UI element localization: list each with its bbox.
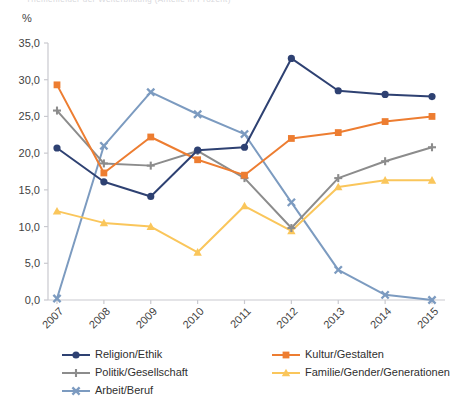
x-axis-tick-label: 2008 xyxy=(86,305,112,331)
data-point-square-marker xyxy=(100,170,107,177)
series-politik-gesellschaft xyxy=(53,107,436,232)
data-point-square-marker xyxy=(241,172,248,179)
x-axis-tick-label: 2007 xyxy=(40,305,66,331)
data-point-circle-marker xyxy=(147,193,154,200)
y-axis-tick-label: 25,0 xyxy=(19,110,40,122)
data-point-circle-marker xyxy=(194,147,201,154)
data-point-square-marker xyxy=(429,113,436,120)
legend-item-religion-ethik[interactable]: Religion/Ethik xyxy=(62,348,163,360)
data-point-cross-marker xyxy=(335,266,342,273)
data-point-cross-marker xyxy=(288,199,295,206)
series-line xyxy=(57,180,432,252)
data-point-square-marker xyxy=(194,156,201,163)
data-point-square-marker xyxy=(147,134,154,141)
data-point-square-marker xyxy=(288,135,295,142)
y-axis-tick-label: 35,0 xyxy=(19,37,40,49)
y-axis-tick-label: 30,0 xyxy=(19,74,40,86)
x-axis-tick-label: 2014 xyxy=(368,305,394,331)
data-point-plus-marker xyxy=(428,143,436,151)
legend-item-label: Arbeit/Beruf xyxy=(95,384,154,396)
y-axis-tick-label: 15,0 xyxy=(19,184,40,196)
y-axis: 0,05,010,015,020,025,030,035,0 xyxy=(19,37,48,306)
cut-off-title: Themenfelder der Weiterbildung (Anteile … xyxy=(26,0,231,4)
data-point-circle-marker xyxy=(428,93,435,100)
data-point-circle-marker xyxy=(72,351,79,358)
x-axis-tick-label: 2011 xyxy=(228,305,253,330)
data-point-triangle-marker xyxy=(53,207,61,215)
data-point-circle-marker xyxy=(382,91,389,98)
x-axis-tick-label: 2009 xyxy=(133,305,159,331)
legend-item-label: Religion/Ethik xyxy=(95,348,163,360)
x-axis-tick-label: 2012 xyxy=(274,305,300,331)
legend-item-arbeit-beruf[interactable]: Arbeit/Beruf xyxy=(62,384,154,396)
series-line xyxy=(57,111,432,228)
data-point-plus-marker xyxy=(381,157,389,165)
y-axis-tick-label: 10,0 xyxy=(19,221,40,233)
data-point-circle-marker xyxy=(100,178,107,185)
legend-item-label: Kultur/Gestalten xyxy=(305,348,384,360)
data-point-square-marker xyxy=(335,129,342,136)
legend-item-politik-gesellschaft[interactable]: Politik/Gesellschaft xyxy=(62,366,188,378)
data-point-circle-marker xyxy=(288,55,295,62)
y-axis-tick-label: 20,0 xyxy=(19,147,40,159)
series-familie-gender-generationen xyxy=(53,176,436,256)
legend-item-label: Familie/Gender/Generationen xyxy=(305,366,450,378)
data-point-plus-marker xyxy=(72,369,80,377)
data-point-cross-marker xyxy=(147,89,154,96)
data-point-square-marker xyxy=(54,81,61,88)
chart-legend: Religion/EthikKultur/GestaltenPolitik/Ge… xyxy=(62,348,450,396)
y-axis-unit-label: % xyxy=(22,12,32,24)
series-arbeit-beruf xyxy=(53,89,435,304)
line-chart-plot: 0,05,010,015,020,025,030,035,0 200720082… xyxy=(0,0,467,406)
data-point-circle-marker xyxy=(241,144,248,151)
series-layer xyxy=(53,55,436,304)
legend-item-kultur-gestalten[interactable]: Kultur/Gestalten xyxy=(272,348,384,360)
data-point-circle-marker xyxy=(335,87,342,94)
series-line xyxy=(57,85,432,175)
y-axis-tick-label: 0,0 xyxy=(25,294,40,306)
data-point-square-marker xyxy=(283,352,290,359)
data-point-plus-marker xyxy=(147,162,155,170)
x-axis-tick-label: 2013 xyxy=(321,305,347,331)
x-axis-tick-label: 2015 xyxy=(415,305,441,331)
x-axis-tick-label: 2010 xyxy=(180,305,206,331)
chart-container: Themenfelder der Weiterbildung (Anteile … xyxy=(0,0,467,406)
legend-item-label: Politik/Gesellschaft xyxy=(95,366,188,378)
data-point-square-marker xyxy=(382,118,389,125)
y-axis-tick-label: 5,0 xyxy=(25,257,40,269)
legend-item-familie-gender-generationen[interactable]: Familie/Gender/Generationen xyxy=(272,366,450,378)
x-axis: 200720082009201020112012201320142015 xyxy=(40,300,445,331)
data-point-triangle-marker xyxy=(240,202,248,210)
data-point-circle-marker xyxy=(53,144,60,151)
